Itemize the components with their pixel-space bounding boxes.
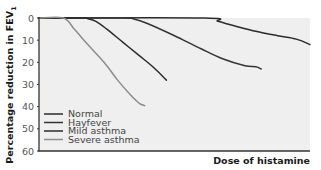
y-tick-label: 10 — [22, 35, 34, 46]
y-tick-label: 50 — [22, 123, 34, 134]
y-axis-ticks: 0102030405060 — [22, 13, 39, 157]
y-tick-label: 40 — [22, 101, 34, 112]
y-tick-label: 60 — [22, 146, 34, 157]
y-axis-title: Percentage reduction in FEV1 — [4, 6, 18, 164]
chart: 0102030405060 NormalHayfeverMild asthmaS… — [0, 0, 321, 170]
legend-label: Severe asthma — [68, 134, 140, 145]
x-axis-title: Dose of histamine — [213, 155, 310, 166]
y-tick-label: 30 — [22, 79, 34, 90]
y-tick-label: 20 — [22, 57, 34, 68]
y-tick-label: 0 — [28, 13, 34, 24]
